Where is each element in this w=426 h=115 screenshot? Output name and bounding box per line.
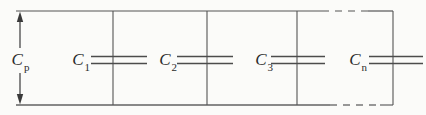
- capacitor-c2-plates: [177, 57, 233, 64]
- label-c3-base: C: [255, 50, 266, 69]
- label-c1-base: C: [72, 50, 83, 69]
- label-c2-base: C: [159, 50, 170, 69]
- label-cp-sub: p: [24, 61, 30, 73]
- label-c3: C3: [243, 50, 272, 70]
- label-cn: Cn: [337, 50, 366, 70]
- parallel-capacitors-circuit-diagram: Cp C1 C2 C3 Cn: [0, 0, 426, 115]
- label-cn-sub: n: [362, 61, 368, 73]
- label-c2-sub: 2: [172, 61, 178, 73]
- label-c3-sub: 3: [268, 61, 274, 73]
- arrowhead-down-icon: [17, 94, 23, 105]
- label-cp: Cp: [3, 50, 37, 70]
- arrowhead-up-icon: [17, 12, 23, 23]
- label-cn-base: C: [349, 50, 360, 69]
- label-cp-base: C: [12, 50, 23, 69]
- label-c2: C2: [147, 50, 176, 70]
- label-c1-sub: 1: [85, 61, 91, 73]
- capacitor-c3-plates: [271, 57, 325, 64]
- capacitor-c1-plates: [91, 57, 147, 64]
- capacitor-cn-plates: [369, 57, 423, 64]
- label-c1: C1: [60, 50, 89, 70]
